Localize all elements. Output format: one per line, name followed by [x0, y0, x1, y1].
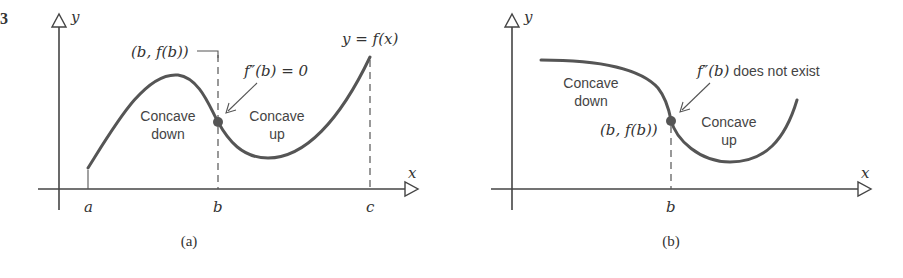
panel-a: y x a b c (b, f(b)) f″(b) = 0 y = f(x) C… [38, 8, 418, 250]
region-concave-up-line1: Concave [249, 108, 304, 124]
panel-caption: (a) [181, 233, 198, 250]
region-concave-down-line2: down [574, 93, 607, 109]
panel-b: y x b f″(b) does not exist (b, f(b)) Con… [491, 8, 871, 250]
x-axis-label: x [861, 164, 870, 182]
second-derivative-annotation: f″(b) does not exist [696, 62, 820, 80]
region-concave-up-line2: up [721, 132, 737, 148]
y-axis-arrow-icon [52, 14, 66, 27]
region-concave-up-line2: up [269, 126, 285, 142]
x-axis-label: x [408, 164, 417, 182]
tick-label-b: b [666, 198, 676, 216]
annotation-text: does not exist [729, 63, 819, 79]
y-axis-label: y [70, 8, 80, 26]
region-concave-down-line1: Concave [140, 108, 195, 124]
inflection-point-dot [213, 117, 223, 127]
y-axis-label: y [523, 8, 533, 26]
second-derivative-annotation: f″(b) = 0 [243, 62, 309, 80]
region-concave-down-line2: down [151, 126, 184, 142]
inflection-point-figure: 3 y x a b c (b, f(b)) f″(b) = 0 y = f(x) [0, 0, 903, 278]
figure-number: 3 [0, 10, 8, 27]
annotation-math: f″(b) [696, 62, 730, 80]
annotation-arrow [228, 83, 257, 111]
x-axis-arrow-icon [858, 182, 871, 196]
tick-label-c: c [366, 198, 375, 216]
region-concave-down-line1: Concave [563, 75, 618, 91]
point-label: (b, f(b)) [131, 43, 189, 61]
point-label: (b, f(b)) [600, 121, 658, 139]
cusp-point-dot [666, 116, 676, 126]
y-axis-arrow-icon [505, 14, 519, 27]
curve-label: y = f(x) [341, 30, 398, 48]
x-axis-arrow-icon [405, 182, 418, 196]
point-label-leader [197, 51, 218, 58]
tick-label-b: b [213, 198, 223, 216]
annotation-arrow [682, 83, 710, 110]
panel-caption: (b) [662, 233, 680, 250]
region-concave-up-line1: Concave [701, 114, 756, 130]
tick-label-a: a [84, 198, 93, 216]
